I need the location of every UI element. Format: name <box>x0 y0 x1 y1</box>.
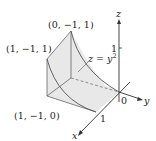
point-label-bottom-left: (1, −1, 0) <box>14 111 60 121</box>
x-tick-label: 1 <box>100 114 106 124</box>
origin-label: 0 <box>121 96 127 106</box>
point-label-left: (1, −1, 1) <box>6 44 52 54</box>
z-axis-arrow-icon <box>117 19 121 24</box>
z-tick-label: 1 <box>111 44 117 54</box>
x-axis-label: x <box>72 131 77 141</box>
y-axis-arrow-icon <box>137 97 143 101</box>
z-axis-label: z <box>116 9 121 19</box>
point-label-top: (0, −1, 1) <box>48 20 94 30</box>
y-axis-label: y <box>144 96 149 106</box>
surface-equation-label: z = y2 <box>88 53 117 64</box>
surface-diagram: (0, −1, 1) (1, −1, 1) (1, −1, 0) z = y2 … <box>0 0 156 141</box>
surface-equation-text: z = y <box>88 53 112 64</box>
